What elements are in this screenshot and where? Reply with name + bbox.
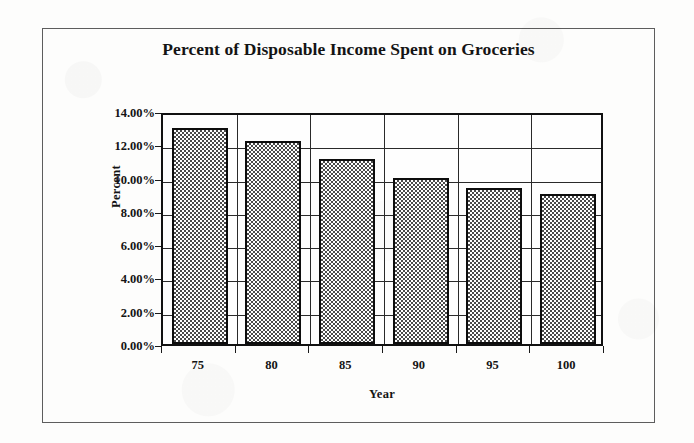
bar[interactable] [393, 178, 449, 344]
y-axis-tick-label: 12.00% [114, 139, 155, 154]
bar-slot [237, 115, 311, 344]
x-axis-tick-mark [382, 346, 383, 353]
bar-slot [531, 115, 605, 344]
chart-title: Percent of Disposable Income Spent on Gr… [43, 39, 654, 60]
x-axis-tick-mark [161, 346, 162, 353]
y-axis-tick-mark [155, 279, 161, 280]
x-axis-tick-mark [603, 346, 604, 353]
x-axis-tick-label: 100 [557, 358, 576, 373]
x-axis-title: Year [161, 387, 603, 402]
chart-frame: Percent of Disposable Income Spent on Gr… [42, 28, 655, 423]
bar[interactable] [466, 188, 522, 344]
bar-slot [384, 115, 458, 344]
y-axis-tick-label: 8.00% [121, 205, 155, 220]
x-axis-tick-label: 95 [486, 358, 499, 373]
bar[interactable] [540, 194, 596, 344]
y-axis-tick-label: 2.00% [121, 305, 155, 320]
x-axis-tick-label: 85 [339, 358, 352, 373]
y-axis-tick-label: 14.00% [114, 106, 155, 121]
x-axis-tick-mark [456, 346, 457, 353]
x-axis-tick-label: 80 [265, 358, 278, 373]
bar-slot [310, 115, 384, 344]
y-axis-tick-mark [155, 213, 161, 214]
y-axis-tick-label: 4.00% [121, 272, 155, 287]
bar[interactable] [245, 141, 301, 344]
bar[interactable] [319, 159, 375, 344]
y-axis-tick-labels: 0.00%2.00%4.00%6.00%8.00%10.00%12.00%14.… [93, 113, 155, 346]
y-axis-tick-mark [155, 246, 161, 247]
bar[interactable] [172, 128, 228, 344]
x-axis-tick-mark [308, 346, 309, 353]
bar-slot [163, 115, 237, 344]
y-axis-tick-mark [155, 113, 161, 114]
y-axis-tick-label: 10.00% [114, 172, 155, 187]
y-axis-tick-mark [155, 180, 161, 181]
x-axis-tick-mark [529, 346, 530, 353]
y-axis-tick-label: 6.00% [121, 239, 155, 254]
bar-slot [458, 115, 532, 344]
y-axis-tick-label: 0.00% [121, 339, 155, 354]
x-axis-tick-label: 90 [413, 358, 426, 373]
y-axis-tick-mark [155, 313, 161, 314]
bars-layer [163, 115, 601, 344]
chart-screenshot: Percent of Disposable Income Spent on Gr… [0, 0, 694, 443]
x-axis-tick-mark [235, 346, 236, 353]
x-axis-tick-label: 75 [192, 358, 205, 373]
y-axis-tick-mark [155, 146, 161, 147]
plot-area [161, 113, 603, 346]
